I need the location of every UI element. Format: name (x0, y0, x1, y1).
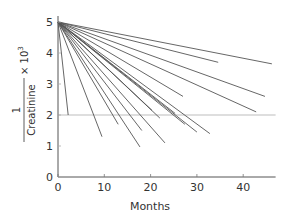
y-ticks: 012345 (46, 16, 61, 184)
y-tick-label: 1 (46, 140, 53, 153)
y-title-multiplier: × 103 (17, 46, 30, 75)
y-tick-label: 5 (46, 16, 53, 29)
series-line (58, 22, 218, 62)
x-tick-label: 30 (190, 181, 204, 194)
series-line (58, 22, 152, 110)
y-tick-label: 4 (46, 47, 53, 60)
x-axis-title: Months (130, 200, 170, 213)
y-tick-label: 0 (46, 171, 53, 184)
series-line (58, 22, 142, 131)
x-tick-label: 0 (55, 181, 62, 194)
series-line (58, 22, 210, 134)
x-tick-label: 20 (144, 181, 158, 194)
chart: 010203040 012345 Months 1 Creatinine × 1… (0, 0, 288, 218)
y-title-denominator: Creatinine (26, 84, 37, 135)
series-line (58, 22, 265, 96)
series-line (58, 22, 118, 124)
series-layer (58, 22, 272, 147)
series-line (58, 22, 272, 64)
x-tick-label: 10 (97, 181, 111, 194)
y-tick-label: 3 (46, 78, 53, 91)
series-line (58, 22, 183, 96)
y-axis-title: 1 Creatinine × 103 (11, 46, 37, 142)
y-title-numerator: 1 (11, 107, 22, 113)
y-tick-label: 2 (46, 109, 53, 122)
x-tick-label: 40 (236, 181, 250, 194)
